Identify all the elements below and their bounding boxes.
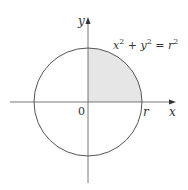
shaded-quarter-region [88,48,142,102]
radius-label: r [143,106,149,118]
eq-r-exp: 2 [173,37,178,46]
x-axis-label: x [169,106,176,118]
y-axis-arrow-icon [86,17,91,24]
circle-equation: x2 + y2 = r2 [113,36,178,52]
x-axis-arrow-icon [169,100,176,105]
origin-label: 0 [78,106,85,118]
circle-diagram [0,0,188,190]
eq-plus: + [124,39,140,52]
eq-equals: = [152,39,168,52]
y-axis-label: y [78,15,85,27]
